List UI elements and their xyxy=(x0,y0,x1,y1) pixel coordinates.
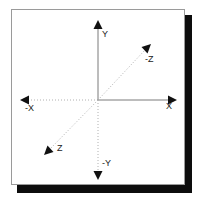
axis-label-y-negative: -Y xyxy=(102,159,111,168)
axis-z-negative xyxy=(98,44,151,100)
axis-z-positive-arrowhead xyxy=(44,146,54,156)
axis-y-positive-arrowhead xyxy=(94,20,103,29)
axis-label-z-negative: -Z xyxy=(145,55,154,64)
axis-z-positive xyxy=(44,100,98,155)
axis-label-x-negative: -X xyxy=(25,104,34,113)
axis-y-negative-arrowhead xyxy=(94,171,103,180)
axis-z-positive-line xyxy=(50,100,98,149)
diagram-root: Y -Y X -X -Z Z xyxy=(0,0,199,203)
axis-z-negative-arrowhead xyxy=(142,44,152,54)
axis-label-y: Y xyxy=(102,30,108,39)
axis-y-negative xyxy=(94,100,103,180)
axis-z-negative-line xyxy=(98,50,145,100)
axis-label-x: X xyxy=(166,102,172,111)
axis-label-z: Z xyxy=(57,144,63,153)
